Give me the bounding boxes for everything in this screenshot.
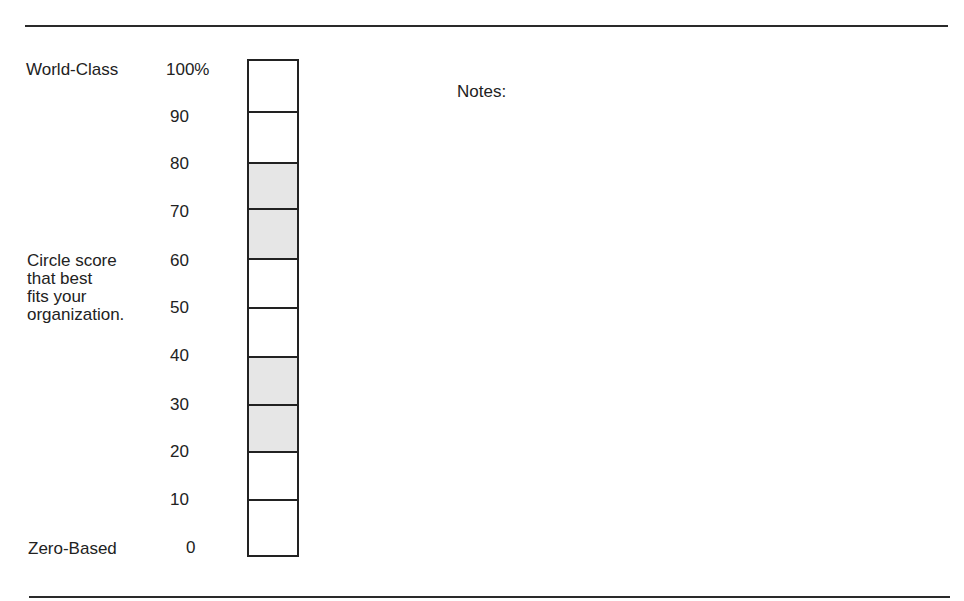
tick-80: 80 [170, 155, 189, 173]
tick-30: 30 [170, 396, 189, 414]
scale-cell-90-100[interactable] [249, 61, 297, 111]
bottom-rule [29, 596, 950, 598]
tick-60: 60 [170, 252, 189, 270]
top-rule [25, 25, 948, 27]
notes-label: Notes: [457, 83, 506, 101]
score-scale-bar [247, 59, 299, 557]
zero-based-label: Zero-Based [28, 540, 117, 558]
scale-cell-20-30[interactable] [249, 404, 297, 451]
tick-100: 100% [166, 61, 209, 79]
instruction-line: Circle score [27, 252, 157, 270]
scale-cell-30-40[interactable] [249, 356, 297, 404]
scale-cell-10-20[interactable] [249, 451, 297, 499]
tick-70: 70 [170, 203, 189, 221]
scale-cell-0-10[interactable] [249, 499, 297, 555]
scale-cell-50-60[interactable] [249, 258, 297, 307]
instruction-text: Circle score that best fits your organiz… [27, 252, 157, 324]
scale-cell-40-50[interactable] [249, 307, 297, 356]
tick-50: 50 [170, 299, 189, 317]
tick-0: 0 [186, 539, 195, 557]
tick-20: 20 [170, 443, 189, 461]
scale-cell-70-80[interactable] [249, 162, 297, 208]
instruction-line: that best [27, 270, 157, 288]
scale-cell-80-90[interactable] [249, 111, 297, 162]
tick-40: 40 [170, 347, 189, 365]
instruction-line: organization. [27, 306, 157, 324]
tick-90: 90 [170, 108, 189, 126]
instruction-line: fits your [27, 288, 157, 306]
scale-cell-60-70[interactable] [249, 208, 297, 258]
tick-10: 10 [170, 491, 189, 509]
world-class-label: World-Class [26, 61, 118, 79]
